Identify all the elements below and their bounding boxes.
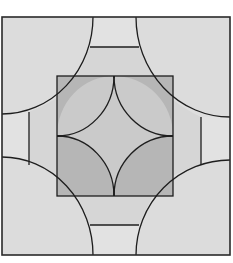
- quilt-block-diagram: [0, 0, 233, 263]
- strip-bottom-outer: [90, 225, 139, 255]
- strip-right-outer: [201, 117, 230, 165]
- strip-top-outer: [90, 17, 139, 47]
